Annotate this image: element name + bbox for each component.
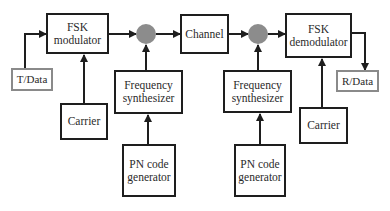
arrow-tdata-to-modulator [25, 34, 46, 68]
carrier-rx-block: Carrier [299, 107, 348, 144]
channel-label: Channel [185, 28, 223, 41]
mixer-tx-circle [136, 24, 156, 44]
channel-block: Channel [180, 14, 229, 54]
r-data-block: R/Data [336, 70, 379, 92]
carrier-tx-label: Carrier [68, 115, 101, 128]
freq-synth-rx-block: Frequency synthesizer [223, 70, 292, 113]
carrier-rx-label: Carrier [307, 119, 340, 132]
freq-synth-tx-label: Frequency synthesizer [123, 79, 175, 105]
pn-gen-tx-label: PN code generator [127, 158, 170, 184]
fsk-demodulator-block: FSK demodulator [285, 13, 352, 58]
t-data-block: T/Data [11, 68, 53, 91]
pn-gen-tx-block: PN code generator [122, 144, 176, 197]
arrow-demodulator-to-rdata [352, 33, 365, 70]
pn-gen-rx-label: PN code generator [238, 158, 281, 184]
freq-synth-tx-block: Frequency synthesizer [114, 70, 183, 114]
carrier-tx-block: Carrier [60, 103, 108, 140]
pn-gen-rx-block: PN code generator [234, 144, 286, 197]
freq-synth-rx-label: Frequency synthesizer [232, 79, 284, 105]
r-data-label: R/Data [342, 75, 373, 88]
fsk-modulator-block: FSK modulator [46, 13, 109, 54]
mixer-rx-circle [248, 24, 268, 44]
t-data-label: T/Data [17, 73, 48, 86]
fsk-demodulator-label: FSK demodulator [289, 23, 347, 49]
fsk-modulator-label: FSK modulator [54, 21, 101, 47]
